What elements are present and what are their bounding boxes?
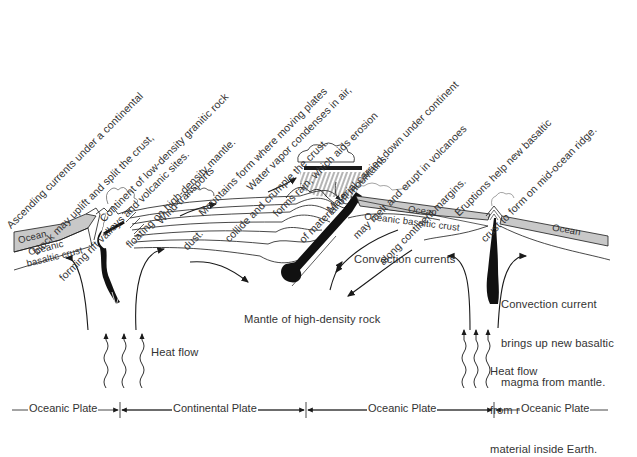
plate-label-oceanic-right: Oceanic Plate <box>520 402 590 414</box>
plate-label-oceanic-left: Oceanic Plate <box>28 402 98 414</box>
label-heat-flow-right: Heat flow from radioactive material insi… <box>490 339 597 457</box>
heat-flow-arrows-left <box>104 334 144 388</box>
label-line: material inside Earth. <box>490 443 597 456</box>
heat-flow-arrows-right <box>462 330 490 388</box>
label-heat-flow-left: Heat flow <box>151 346 199 359</box>
label-line: Heat flow <box>490 365 597 378</box>
label-line: Convection current <box>501 298 614 311</box>
label-mantle: Mantle of high-density rock <box>244 313 380 326</box>
plate-label-continental: Continental Plate <box>172 402 258 414</box>
plate-legend: Oceanic Plate Continental Plate Oceanic … <box>0 402 637 418</box>
plate-label-oceanic-mid: Oceanic Plate <box>367 402 437 414</box>
label-convection-currents: Convection currents <box>354 253 455 266</box>
